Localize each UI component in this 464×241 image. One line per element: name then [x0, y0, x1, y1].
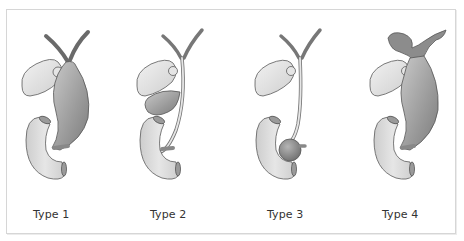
cystic-duct-junction: [169, 67, 178, 76]
extrahepatic-cyst: [400, 56, 438, 150]
panel-type1: [22, 32, 89, 179]
pancreatic-duct: [402, 146, 414, 148]
fusiform-cyst: [52, 62, 89, 151]
cystic-duct-junction: [287, 67, 296, 76]
pancreatic-duct: [162, 148, 173, 149]
panel-type4: [370, 30, 446, 179]
label-type3: Type 3: [267, 208, 303, 221]
duodenum-opening-bottom: [176, 162, 181, 176]
choledochal-cyst-diagram: [0, 0, 464, 241]
label-type4: Type 4: [382, 208, 418, 221]
gallbladder: [255, 60, 294, 96]
hepatic-duct-left: [46, 36, 68, 62]
choledochocele: [279, 139, 301, 161]
hepatic-duct-right: [302, 30, 320, 58]
panel-type3: [255, 30, 320, 179]
hepatic-duct-left: [163, 36, 181, 58]
duodenum-opening-bottom: [410, 162, 415, 176]
hepatic-duct-right: [70, 32, 88, 60]
pancreatic-duct: [54, 146, 68, 148]
label-type2: Type 2: [150, 208, 186, 221]
panel-type2: [137, 30, 202, 179]
hepatic-duct-right: [184, 30, 202, 58]
duodenum-opening-bottom: [292, 162, 297, 176]
label-type1: Type 1: [33, 208, 69, 221]
duodenum-opening-bottom: [62, 162, 67, 176]
hepatic-duct-left: [281, 36, 299, 58]
